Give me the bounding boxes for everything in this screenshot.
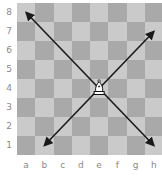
move-arrows — [26, 13, 154, 146]
arrow-overlay — [0, 0, 162, 179]
arrow-e4-h7 — [99, 32, 154, 89]
pieces-layer — [94, 80, 104, 95]
arrow-e4-h1 — [99, 89, 154, 146]
white-bishop-icon[interactable] — [94, 80, 104, 95]
arrow-e4-b1 — [44, 89, 99, 146]
arrow-e4-a8 — [26, 13, 99, 89]
